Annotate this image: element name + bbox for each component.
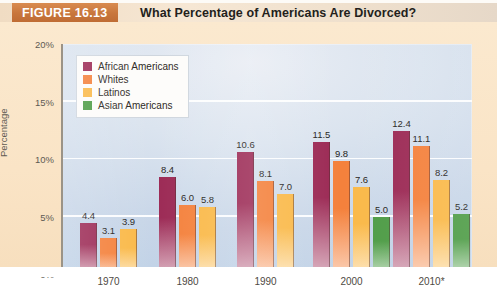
bar-value-label: 8.1 [259, 168, 272, 179]
bar-rect [433, 180, 450, 274]
y-tick-5%: 5% [0, 211, 54, 222]
legend-label: African Americans [98, 61, 179, 72]
bar-rect [333, 161, 350, 274]
bar-rect [393, 131, 410, 274]
bar-value-label: 3.1 [102, 225, 115, 236]
bar-whites-2010: 11.1 [413, 146, 430, 274]
bar-rect [277, 194, 294, 275]
bar-group-2000: 11.59.87.65.0 [313, 142, 390, 274]
bar-value-label: 3.9 [122, 216, 135, 227]
bar-group-1980: 8.46.05.8 [159, 177, 216, 274]
bar-value-label: 7.6 [355, 174, 368, 185]
x-tick-2000: 2000 [340, 276, 362, 287]
page-bottom-margin [0, 267, 497, 277]
plot-area: 4.43.13.98.46.05.810.68.17.011.59.87.65.… [62, 44, 472, 274]
bar-rect [179, 205, 196, 274]
chart-legend: African AmericansWhitesLatinosAsian Amer… [76, 55, 189, 118]
y-axis-title: Percentage [0, 108, 9, 157]
bar-rect [413, 146, 430, 274]
bar-asian-americans-2010: 5.2 [453, 214, 470, 274]
legend-label: Asian Americans [98, 100, 172, 111]
bar-rect [373, 217, 390, 275]
bar-whites-2000: 9.8 [333, 161, 350, 274]
bar-group-1990: 10.68.17.0 [237, 152, 294, 274]
legend-swatch-icon [83, 75, 92, 84]
bar-latinos-2000: 7.6 [353, 187, 370, 274]
x-tick-2010: 2010* [418, 276, 444, 287]
bar-latinos-2010: 8.2 [433, 180, 450, 274]
bar-value-label: 6.0 [181, 192, 194, 203]
bar-value-label: 5.2 [455, 201, 468, 212]
bar-value-label: 8.2 [435, 167, 448, 178]
bar-african-americans-1990: 10.6 [237, 152, 254, 274]
bar-latinos-1980: 5.8 [199, 207, 216, 274]
bar-value-label: 7.0 [279, 181, 292, 192]
bar-value-label: 5.0 [375, 204, 388, 215]
bar-whites-1990: 8.1 [257, 181, 274, 274]
bar-value-label: 4.4 [82, 210, 95, 221]
bar-value-label: 12.4 [392, 118, 411, 129]
y-tick-15%: 15% [0, 96, 54, 107]
x-tick-1980: 1980 [176, 276, 198, 287]
bar-value-label: 8.4 [161, 164, 174, 175]
legend-swatch-icon [83, 62, 92, 71]
bar-value-label: 10.6 [236, 139, 255, 150]
bar-value-label: 11.5 [313, 129, 331, 140]
x-tick-1990: 1990 [254, 276, 276, 287]
bar-rect [453, 214, 470, 274]
figure-title: What Percentage of Americans Are Divorce… [140, 3, 416, 22]
bar-value-label: 5.8 [201, 194, 214, 205]
bar-latinos-1990: 7.0 [277, 194, 294, 275]
bar-asian-americans-2000: 5.0 [373, 217, 390, 275]
bar-rect [237, 152, 254, 274]
bar-rect [199, 207, 216, 274]
legend-swatch-icon [83, 88, 92, 97]
legend-item-latinos: Latinos [83, 86, 179, 99]
bar-rect [159, 177, 176, 274]
legend-label: Latinos [98, 87, 130, 98]
figure-number-badge: FIGURE 16.13 [12, 3, 118, 22]
legend-item-african-americans: African Americans [83, 60, 179, 73]
chart-area: 4.43.13.98.46.05.810.68.17.011.59.87.65.… [0, 22, 497, 267]
bar-value-label: 9.8 [335, 148, 348, 159]
legend-swatch-icon [83, 101, 92, 110]
legend-item-asian-americans: Asian Americans [83, 99, 179, 112]
y-axis [61, 44, 63, 275]
bar-african-americans-2010: 12.4 [393, 131, 410, 274]
bar-rect [353, 187, 370, 274]
bar-group-2010: 12.411.18.25.2 [393, 131, 470, 274]
y-tick-20%: 20% [0, 39, 54, 50]
bar-african-americans-2000: 11.5 [313, 142, 330, 274]
bar-rect [257, 181, 274, 274]
x-tick-1970: 1970 [97, 276, 119, 287]
legend-label: Whites [98, 74, 129, 85]
bar-african-americans-1980: 8.4 [159, 177, 176, 274]
bar-rect [313, 142, 330, 274]
bar-whites-1980: 6.0 [179, 205, 196, 274]
legend-item-whites: Whites [83, 73, 179, 86]
bar-value-label: 11.1 [413, 133, 431, 144]
